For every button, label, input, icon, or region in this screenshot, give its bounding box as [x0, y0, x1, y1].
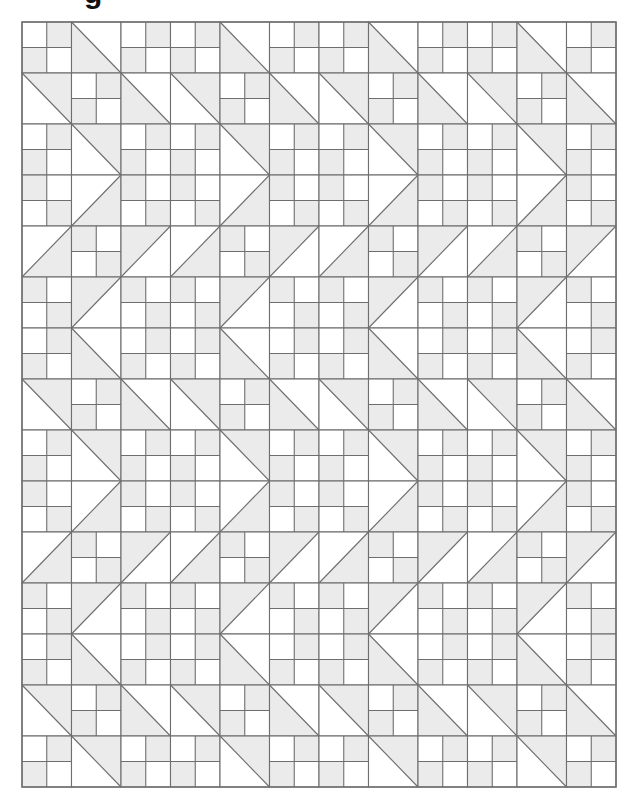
four-patch-block [319, 430, 369, 481]
four-patch-block [418, 634, 468, 685]
four-patch-block [517, 73, 567, 124]
shaded-square [344, 303, 369, 329]
four-patch-block [270, 583, 320, 634]
shaded-square [443, 634, 468, 660]
four-patch-block [369, 73, 419, 124]
four-patch-block [121, 328, 171, 379]
four-patch-block [319, 124, 369, 175]
four-patch-block [468, 481, 518, 532]
shaded-square [195, 609, 220, 635]
shaded-square [567, 150, 592, 176]
shaded-square [492, 303, 517, 329]
shaded-square [443, 609, 468, 635]
four-patch-block [121, 481, 171, 532]
four-patch-block [72, 73, 122, 124]
shaded-square [22, 48, 47, 74]
shaded-square [294, 609, 319, 635]
shaded-square [121, 660, 146, 686]
shaded-square [393, 252, 418, 278]
shaded-square [418, 456, 443, 482]
four-patch-block [567, 175, 617, 226]
shaded-square [468, 660, 493, 686]
four-patch-block [270, 22, 320, 73]
four-patch-block [121, 736, 171, 787]
shaded-square [418, 48, 443, 74]
shaded-square [319, 762, 344, 788]
half-square-triangle-block [220, 583, 270, 634]
shaded-square [195, 634, 220, 660]
shaded-square [146, 201, 171, 227]
four-patch-block [468, 634, 518, 685]
four-patch-block [319, 328, 369, 379]
half-square-triangle-block [369, 736, 419, 787]
shaded-square [171, 583, 196, 609]
half-square-triangle-block [517, 481, 567, 532]
four-patch-block [270, 328, 320, 379]
four-patch-block [22, 736, 72, 787]
half-square-triangle-block [369, 583, 419, 634]
shaded-square [542, 73, 567, 99]
four-patch-block [270, 175, 320, 226]
shaded-square [245, 685, 270, 711]
half-square-triangle-block [220, 634, 270, 685]
shaded-square [294, 507, 319, 533]
shaded-square [146, 609, 171, 635]
shaded-square [121, 175, 146, 201]
shaded-square [121, 481, 146, 507]
shaded-square [591, 736, 616, 762]
half-square-triangle-block [171, 685, 221, 736]
shaded-square [72, 99, 97, 125]
half-square-triangle-block [22, 226, 72, 277]
shaded-square [468, 481, 493, 507]
shaded-square [294, 22, 319, 48]
half-square-triangle-block [171, 226, 221, 277]
four-patch-block [517, 379, 567, 430]
half-square-triangle-block [517, 583, 567, 634]
shaded-square [47, 124, 72, 150]
shaded-square [121, 456, 146, 482]
shaded-square [47, 328, 72, 354]
four-patch-block [319, 583, 369, 634]
four-patch-block [22, 175, 72, 226]
half-square-triangle-block [270, 379, 320, 430]
shaded-square [468, 583, 493, 609]
half-square-triangle-block [72, 583, 122, 634]
shaded-square [443, 736, 468, 762]
half-square-triangle-block [369, 175, 419, 226]
shaded-square [591, 124, 616, 150]
shaded-square [171, 354, 196, 380]
shaded-square [146, 124, 171, 150]
half-square-triangle-block [72, 277, 122, 328]
shaded-square [393, 73, 418, 99]
half-square-triangle-block [22, 73, 72, 124]
four-patch-block [270, 634, 320, 685]
shaded-square [319, 583, 344, 609]
shaded-square [492, 124, 517, 150]
shaded-square [146, 736, 171, 762]
shaded-square [517, 405, 542, 431]
shaded-square [418, 354, 443, 380]
half-square-triangle-block [121, 685, 171, 736]
half-square-triangle-block [72, 175, 122, 226]
four-patch-block [270, 277, 320, 328]
four-patch-block [468, 277, 518, 328]
half-square-triangle-block [171, 532, 221, 583]
shaded-square [567, 354, 592, 380]
four-patch-block [22, 481, 72, 532]
shaded-square [319, 277, 344, 303]
shaded-square [47, 507, 72, 533]
half-square-triangle-block [418, 685, 468, 736]
shaded-square [369, 405, 394, 431]
half-square-triangle-block [22, 532, 72, 583]
four-patch-block [171, 481, 221, 532]
half-square-triangle-block [369, 277, 419, 328]
half-square-triangle-block [72, 481, 122, 532]
shaded-square [195, 507, 220, 533]
four-patch-block [220, 226, 270, 277]
half-square-triangle-block [517, 22, 567, 73]
shaded-square [171, 762, 196, 788]
shaded-square [121, 277, 146, 303]
shaded-square [96, 685, 121, 711]
shaded-square [591, 609, 616, 635]
four-patch-block [567, 430, 617, 481]
